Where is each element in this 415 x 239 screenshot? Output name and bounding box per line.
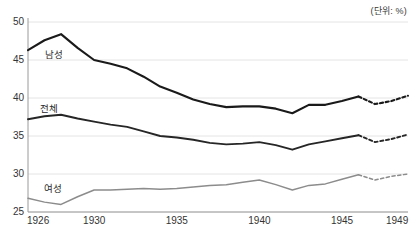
series-line-여성	[28, 175, 358, 205]
chart-plot-area	[0, 0, 415, 239]
series-line-남성	[28, 34, 358, 113]
x-tick-1945: 1945	[331, 215, 353, 226]
x-tick-1930: 1930	[83, 215, 105, 226]
x-tick-1926: 1926	[27, 215, 49, 226]
x-tick-1935: 1935	[166, 215, 188, 226]
y-tick-30: 30	[2, 168, 24, 179]
y-tick-50: 50	[2, 16, 24, 27]
y-tick-40: 40	[2, 92, 24, 103]
y-tick-25: 25	[2, 206, 24, 217]
series-line-전체	[28, 115, 358, 150]
y-tick-45: 45	[2, 54, 24, 65]
x-tick-1949: 1949	[386, 215, 408, 226]
series-label-total: 전체	[40, 101, 58, 115]
x-tick-1940: 1940	[248, 215, 270, 226]
series-label-female: 여성	[44, 181, 62, 195]
y-tick-35: 35	[2, 130, 24, 141]
series-line-forecast-남성	[358, 96, 408, 104]
line-chart: (단위: %) 504540353025 1926193019351940194…	[0, 0, 415, 239]
series-label-male: 남성	[45, 47, 63, 61]
series-line-forecast-여성	[358, 174, 408, 180]
